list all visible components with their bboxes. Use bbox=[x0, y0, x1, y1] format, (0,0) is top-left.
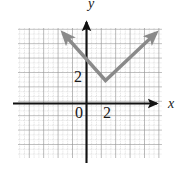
x-tick-label-2: 2 bbox=[103, 104, 111, 121]
x-axis-label: x bbox=[167, 96, 175, 111]
coordinate-plane-figure: x y 2 0 2 bbox=[0, 0, 195, 172]
origin-label-0: 0 bbox=[75, 104, 83, 121]
y-tick-label-2: 2 bbox=[74, 68, 82, 85]
graph-screenshot: x y 2 0 2 bbox=[0, 0, 195, 172]
y-axis-label: y bbox=[86, 0, 95, 11]
